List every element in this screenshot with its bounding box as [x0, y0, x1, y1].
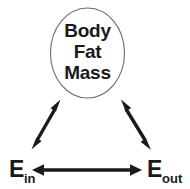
oval-line-mass: Mass — [64, 62, 110, 83]
arrow-eout-to-body — [121, 100, 151, 151]
oval-line-body: Body — [64, 20, 111, 41]
energy-in-symbol: E — [9, 156, 24, 182]
energy-in-label: E in — [9, 156, 36, 186]
energy-out-subscript: out — [162, 171, 183, 186]
arrow-ein-to-body — [32, 100, 61, 150]
oval-line-fat: Fat — [74, 41, 103, 62]
energy-out-label: E out — [147, 156, 183, 186]
energy-in-subscript: in — [24, 171, 36, 186]
arrow-ein-to-eout — [32, 164, 142, 175]
energy-out-symbol: E — [147, 156, 162, 182]
diagram-canvas: Body Fat Mass E in E out — [0, 0, 190, 189]
diagram-svg: Body Fat Mass E in E out — [0, 0, 190, 189]
